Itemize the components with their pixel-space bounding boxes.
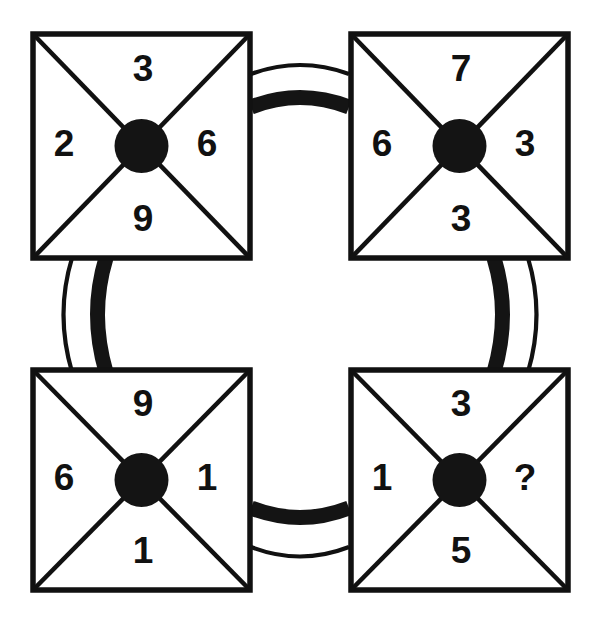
puzzle-cell-top-left[interactable]: 3 2 6 9 bbox=[33, 34, 250, 258]
connector-left bbox=[64, 258, 107, 372]
puzzle-cell-bottom-right[interactable]: 3 1 ? 5 bbox=[351, 370, 568, 590]
cell-hub-top-left bbox=[115, 119, 169, 173]
cell-value-top-left-left: 2 bbox=[54, 123, 75, 164]
connector-left-inner-arc bbox=[98, 258, 107, 372]
connector-bottom-outer-arc bbox=[251, 547, 349, 557]
cell-value-top-left-top: 3 bbox=[133, 48, 154, 89]
cell-value-top-right-right: 3 bbox=[515, 123, 536, 164]
cell-value-bottom-left-top: 9 bbox=[133, 383, 154, 424]
connector-top-outer-arc bbox=[251, 65, 349, 74]
cell-value-top-right-left: 6 bbox=[372, 123, 393, 164]
cell-hub-top-right bbox=[433, 119, 487, 173]
connector-bottom bbox=[251, 508, 349, 557]
cell-value-bottom-right-bottom: 5 bbox=[451, 530, 472, 571]
connector-bottom-inner-arc bbox=[251, 508, 349, 518]
connector-top bbox=[251, 65, 349, 107]
cell-hub-bottom-right bbox=[433, 453, 487, 507]
puzzle-cell-top-right[interactable]: 7 6 3 3 bbox=[351, 34, 568, 258]
cell-value-bottom-left-bottom: 1 bbox=[133, 530, 154, 571]
cell-value-bottom-left-left: 6 bbox=[54, 457, 75, 498]
cell-value-top-left-right: 6 bbox=[197, 123, 218, 164]
cell-value-top-left-bottom: 9 bbox=[133, 198, 154, 239]
puzzle-cell-bottom-left[interactable]: 9 6 1 1 bbox=[33, 370, 250, 590]
cell-value-top-right-top: 7 bbox=[451, 48, 472, 89]
connector-right-inner-arc bbox=[494, 258, 503, 372]
puzzle-diagram: 3 2 6 9 7 6 3 3 9 6 1 1 bbox=[0, 0, 595, 625]
cell-value-bottom-right-top: 3 bbox=[451, 383, 472, 424]
cell-value-bottom-right-left: 1 bbox=[372, 457, 393, 498]
cell-value-top-right-bottom: 3 bbox=[451, 198, 472, 239]
cell-value-bottom-right-unknown[interactable]: ? bbox=[514, 457, 537, 498]
connector-top-inner-arc bbox=[251, 98, 349, 108]
puzzle-canvas: 3 2 6 9 7 6 3 3 9 6 1 1 bbox=[0, 0, 595, 625]
cell-hub-bottom-left bbox=[115, 453, 169, 507]
connector-right-outer-arc bbox=[528, 258, 537, 372]
connector-right bbox=[494, 258, 537, 372]
cell-value-bottom-left-right: 1 bbox=[197, 457, 218, 498]
connector-left-outer-arc bbox=[64, 258, 73, 372]
